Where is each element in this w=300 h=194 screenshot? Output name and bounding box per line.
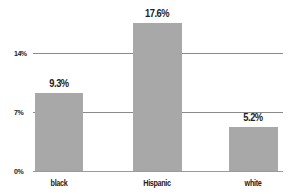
- value-label-black: 9.3%: [34, 77, 85, 89]
- category-label-black: black: [34, 178, 85, 188]
- category-label-white: white: [228, 178, 279, 188]
- y-tick-0: 0%: [14, 168, 30, 175]
- value-label-hispanic: 17.6%: [132, 7, 183, 19]
- bar-hispanic: [133, 23, 182, 171]
- x-axis-baseline: [33, 171, 283, 172]
- y-tick-7: 7%: [14, 109, 30, 116]
- bar-chart: 14% 7% 0% 9.3% 17.6% 5.2% black Hispanic…: [0, 0, 300, 194]
- value-label-white: 5.2%: [228, 111, 279, 123]
- category-label-hispanic: Hispanic: [132, 178, 183, 188]
- bar-black: [35, 93, 83, 171]
- y-tick-14: 14%: [14, 50, 30, 57]
- bar-white: [229, 127, 278, 171]
